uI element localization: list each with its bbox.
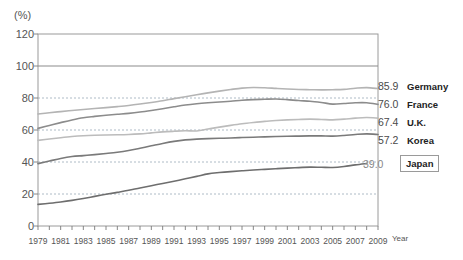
line-chart: (%) 120 100 80 60 40 20 0 19791981198319… <box>0 0 463 260</box>
legend-value-uk: 67.4 <box>378 116 403 128</box>
legend-label-uk: U.K. <box>407 117 426 128</box>
legend-value-japan: 39.0 <box>363 158 383 170</box>
legend-label-korea: Korea <box>407 135 434 146</box>
legend-value-germany: 85.9 <box>378 80 403 92</box>
series-line-france <box>38 99 378 128</box>
legend-value-korea: 57.2 <box>378 134 403 146</box>
series-line-germany <box>38 87 378 114</box>
legend-label-france: France <box>407 99 438 110</box>
chart-legend: 85.9 Germany 76.0 France 67.4 U.K. 57.2 … <box>378 0 463 260</box>
legend-label-japan: Japan <box>400 155 439 172</box>
legend-value-france: 76.0 <box>378 98 403 110</box>
legend-label-germany: Germany <box>407 81 448 92</box>
series-line-japan <box>38 164 367 205</box>
series-line-uk <box>38 118 378 141</box>
series-line-korea <box>38 134 378 164</box>
